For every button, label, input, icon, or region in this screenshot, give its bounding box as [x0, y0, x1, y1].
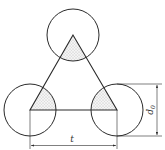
shaded-sector-top: [60, 35, 86, 61]
diameter-label-subscript: 0: [149, 105, 156, 109]
diameter-label: d0: [145, 105, 156, 115]
pitch-label: t: [70, 134, 74, 144]
shaded-sector-bottom-right: [91, 88, 117, 111]
triangular-pitch-diagram: t d0: [0, 0, 165, 150]
shaded-sector-bottom-left: [30, 88, 56, 111]
